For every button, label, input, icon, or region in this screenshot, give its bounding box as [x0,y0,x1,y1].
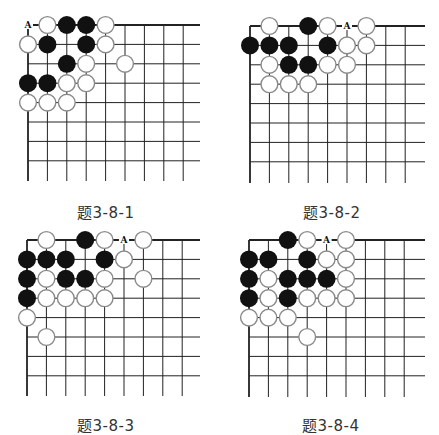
white-stone [338,270,355,287]
black-stone [298,270,316,288]
black-stone [240,289,258,307]
black-stone [240,250,258,268]
white-stone [318,251,335,268]
white-stone [299,290,316,307]
black-stone [279,289,297,307]
white-stone [318,290,335,307]
black-stone [318,270,336,288]
black-stone [279,231,297,249]
white-stone [260,270,277,287]
black-stone [240,270,258,288]
white-stone [241,309,258,326]
black-stone [259,250,277,268]
white-stone [338,232,355,249]
white-stone [338,251,355,268]
white-stone [260,290,277,307]
black-stone [298,250,316,268]
white-stone [279,309,296,326]
board-caption: 题3-8-4 [302,414,359,435]
black-stone [279,270,297,288]
white-stone [338,290,355,307]
point-label-a: A [322,235,331,245]
white-stone [260,309,277,326]
white-stone [299,329,316,346]
white-stone [299,232,316,249]
